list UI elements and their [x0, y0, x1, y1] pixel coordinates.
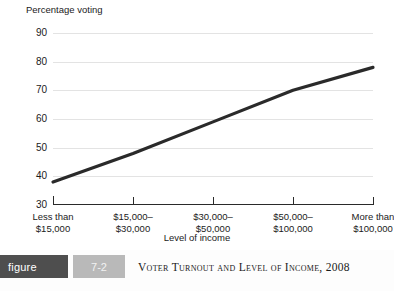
figure-container: Percentage voting 30405060708090 Less th…	[0, 0, 394, 291]
figure-caption-bar: figure 7-2 Voter Turnout and Level of In…	[0, 255, 394, 278]
turnout-line-series	[53, 33, 373, 205]
y-tick-label-60: 60	[36, 114, 47, 124]
y-tick-label-70: 70	[36, 85, 47, 95]
x-tick-label-line: Less than	[32, 211, 73, 223]
x-tick-label-line: $15,000–	[113, 211, 153, 223]
y-tick-label-80: 80	[36, 57, 47, 67]
x-tick-4	[373, 197, 374, 205]
y-axis-title: Percentage voting	[26, 4, 103, 15]
y-tick-label-90: 90	[36, 28, 47, 38]
x-tick-label-line: $50,000–	[273, 211, 313, 223]
y-tick-label-50: 50	[36, 143, 47, 153]
x-tick-label-2: $30,000–$50,000	[193, 211, 233, 234]
x-tick-label-line: $30,000–	[193, 211, 233, 223]
x-axis-title: Level of income	[0, 232, 394, 243]
figure-number-badge: 7-2	[73, 255, 125, 278]
figure-caption-title: Voter Turnout and Level of Income, 2008	[125, 255, 394, 278]
chart-panel: Percentage voting 30405060708090 Less th…	[0, 0, 394, 250]
x-tick-label-0: Less than$15,000	[32, 211, 73, 234]
x-tick-label-4: More than$100,000	[352, 211, 394, 234]
x-tick-label-line: More than	[352, 211, 394, 223]
figure-badge: figure	[0, 255, 68, 278]
y-tick-label-40: 40	[36, 171, 47, 181]
x-tick-label-3: $50,000–$100,000	[273, 211, 313, 234]
plot-area: 30405060708090 Less than$15,000$15,000–$…	[53, 33, 373, 205]
y-tick-label-30: 30	[36, 200, 47, 210]
x-tick-label-1: $15,000–$30,000	[113, 211, 153, 234]
